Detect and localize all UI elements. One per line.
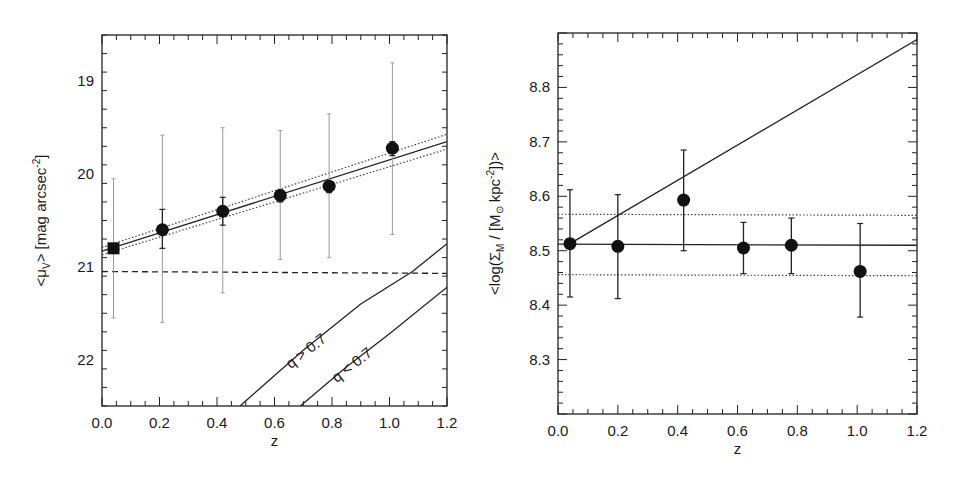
circle-marker [611, 240, 624, 253]
x-axis-title: z [271, 432, 279, 449]
ylabel-end: ] [32, 155, 49, 159]
fit-lower-line [102, 149, 447, 255]
ylabel-sub: M [495, 244, 506, 252]
square-marker [108, 242, 120, 254]
y-tick-label: 8.5 [529, 242, 550, 259]
left-chart: 0.00.20.40.60.81.01.2z19202122<μV> [mag … [31, 35, 457, 449]
y-tick-label: 19 [77, 72, 94, 89]
plot-frame [102, 35, 447, 406]
circle-marker [563, 237, 576, 250]
ylabel-end: ])> [486, 152, 503, 170]
x-tick-label: 0.8 [322, 414, 343, 431]
circle-marker [216, 205, 229, 218]
x-tick-label: 0.0 [548, 422, 569, 439]
ylabel-rest: > [mag arcsec [32, 167, 49, 262]
y-tick-label: 8.3 [529, 351, 550, 368]
x-tick-label: 0.6 [727, 422, 748, 439]
right-chart: 0.00.20.40.60.81.01.2z8.38.48.58.68.78.8… [485, 33, 927, 457]
y-tick-label: 20 [77, 165, 94, 182]
x-tick-label: 1.0 [847, 422, 868, 439]
y-tick-label: 22 [77, 351, 94, 368]
x-tick-label: 0.6 [264, 414, 285, 431]
x-tick-label: 0.2 [607, 422, 628, 439]
x-tick-label: 1.2 [907, 422, 928, 439]
y-tick-label: 8.7 [529, 133, 550, 150]
plot-area [558, 40, 917, 318]
x-tick-label: 1.2 [437, 414, 458, 431]
y-tick-label: 8.8 [529, 78, 550, 95]
ylabel-rest: kpc [486, 178, 503, 206]
y-tick-label: 8.4 [529, 296, 550, 313]
circle-marker [785, 239, 798, 252]
y-tick-label: 8.6 [529, 187, 550, 204]
x-tick-label: 0.4 [207, 414, 228, 431]
x-tick-label: 0.0 [92, 414, 113, 431]
circle-marker [386, 142, 399, 155]
circle-marker [156, 223, 169, 236]
mean-upper-line [558, 214, 917, 215]
prediction-line [570, 40, 917, 244]
x-tick-label: 1.0 [379, 414, 400, 431]
circle-marker [677, 194, 690, 207]
ylabel-main: <μ [32, 269, 49, 286]
x-tick-label: 0.2 [149, 414, 170, 431]
ylabel-mid: / [M [486, 214, 503, 243]
figure: 0.00.20.40.60.81.01.2z19202122<μV> [mag … [0, 0, 968, 481]
circle-marker [737, 241, 750, 254]
curve-annotation: q < 0.7 [328, 344, 375, 386]
ylabel-sun-symbol: ⊙ [494, 206, 505, 214]
y-axis-title: <log(ΣM / [M⊙ kpc-2])> [485, 152, 506, 295]
ylabel-main: <log(Σ [486, 252, 503, 295]
circle-marker [323, 180, 336, 193]
circle-marker [854, 265, 867, 278]
curve-annotation: q > 0.7 [282, 330, 329, 372]
x-tick-label: 0.8 [787, 422, 808, 439]
threshold-line [102, 272, 447, 274]
x-axis-title: z [734, 440, 742, 457]
y-tick-label: 21 [77, 258, 94, 275]
y-axis-title: <μV> [mag arcsec-2] [31, 155, 52, 287]
x-tick-label: 0.4 [667, 422, 688, 439]
circle-marker [274, 189, 287, 202]
plot-area [102, 63, 447, 406]
